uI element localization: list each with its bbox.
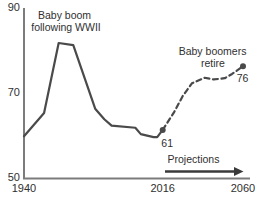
- data-point-markers: 6176: [160, 63, 249, 149]
- historical-line: [24, 43, 163, 137]
- y-axis-tick-labels: 907050: [8, 1, 20, 183]
- data-point-value-label: 76: [237, 72, 249, 84]
- projections-arrow-icon: [165, 167, 244, 176]
- y-tick-label: 90: [8, 1, 20, 13]
- x-axis-tick-labels: 194020162060: [12, 182, 255, 194]
- projection-dashed-line: [163, 66, 243, 130]
- y-tick-label: 50: [8, 171, 20, 183]
- chart-figure: 907050 194020162060 6176 Baby boom follo…: [0, 0, 258, 201]
- data-point-dot: [240, 63, 246, 69]
- x-tick-label: 2060: [231, 182, 255, 194]
- x-tick-label: 2016: [150, 182, 174, 194]
- annotation-projections-label: Projections: [168, 153, 220, 165]
- data-point-dot: [160, 127, 166, 133]
- annotation-baby-boom: Baby boom following WWII: [31, 9, 100, 33]
- y-tick-label: 70: [8, 86, 20, 98]
- chart-canvas: 907050 194020162060 6176 Baby boom follo…: [0, 0, 258, 201]
- annotation-boomers-retire: Baby boomers retire: [179, 45, 250, 69]
- data-point-value-label: 61: [161, 137, 173, 149]
- x-tick-label: 1940: [12, 182, 36, 194]
